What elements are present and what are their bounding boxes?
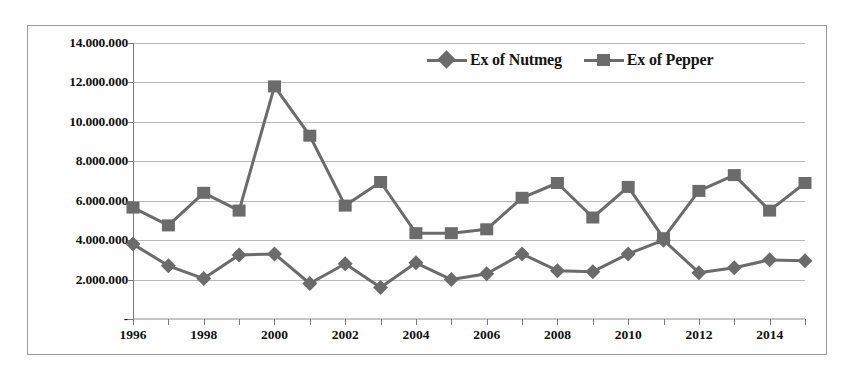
x-axis-tick — [168, 319, 169, 325]
x-axis-tick-label: 1996 — [120, 327, 147, 343]
x-axis-ticks — [133, 319, 805, 327]
data-point-square — [303, 130, 316, 142]
data-point-square — [657, 232, 670, 244]
series-plot — [133, 43, 805, 319]
x-axis-tick — [770, 319, 771, 325]
plot-area — [133, 43, 805, 319]
data-point-diamond — [515, 246, 530, 261]
x-axis-tick — [381, 319, 382, 325]
chart-legend: Ex of Nutmeg Ex of Pepper — [427, 48, 713, 72]
data-point-square — [551, 177, 564, 189]
x-axis-tick — [416, 319, 417, 325]
data-point-square — [480, 223, 493, 235]
data-point-square — [339, 200, 352, 212]
x-axis-tick-label: 1998 — [190, 327, 217, 343]
data-point-square — [445, 227, 458, 239]
series-line-nutmeg — [133, 240, 805, 287]
x-axis-tick — [664, 319, 665, 325]
data-point-square — [728, 169, 741, 181]
x-axis-labels: 1996199820002002200420062008201020122014 — [133, 327, 805, 349]
data-point-diamond — [550, 263, 565, 278]
data-point-square — [127, 202, 140, 214]
data-point-square — [374, 176, 387, 188]
data-point-diamond — [798, 253, 813, 268]
data-point-diamond — [444, 272, 459, 287]
y-axis-tick-label: 4.000.000 — [76, 232, 128, 248]
legend-item-pepper[interactable]: Ex of Pepper — [584, 51, 713, 69]
data-point-square — [516, 192, 529, 204]
x-axis-tick-label: 2014 — [756, 327, 783, 343]
data-point-square — [197, 187, 210, 199]
x-axis-tick — [451, 319, 452, 325]
y-axis-tick-label: 10.000.000 — [69, 114, 128, 130]
data-point-square — [268, 80, 281, 92]
x-axis-tick-label: 2010 — [615, 327, 642, 343]
data-point-square — [622, 181, 635, 193]
x-axis-tick — [310, 319, 311, 325]
data-point-diamond — [762, 252, 777, 267]
x-axis-tick — [133, 319, 134, 325]
y-axis-tick-label: 2.000.000 — [76, 272, 128, 288]
x-axis-tick-label: 2012 — [685, 327, 712, 343]
data-point-diamond — [621, 246, 636, 261]
data-point-square — [763, 205, 776, 217]
data-point-square — [692, 185, 705, 197]
data-point-diamond — [161, 258, 176, 273]
diamond-marker-icon — [427, 53, 467, 67]
legend-label-pepper: Ex of Pepper — [627, 51, 713, 69]
data-point-square — [162, 219, 175, 231]
data-point-diamond — [585, 264, 600, 279]
y-axis-tick-label: 14.000.000 — [69, 35, 128, 51]
x-axis-tick — [345, 319, 346, 325]
x-axis-tick — [239, 319, 240, 325]
x-axis-tick — [487, 319, 488, 325]
data-point-square — [799, 177, 812, 189]
x-axis-tick — [628, 319, 629, 325]
x-axis-tick-label: 2006 — [473, 327, 500, 343]
chart-container: -2.000.0004.000.0006.000.0008.000.00010.… — [27, 25, 827, 355]
data-point-diamond — [727, 260, 742, 275]
x-axis-tick-label: 2002 — [332, 327, 359, 343]
x-axis-tick — [734, 319, 735, 325]
data-point-square — [586, 212, 599, 224]
legend-item-nutmeg[interactable]: Ex of Nutmeg — [427, 51, 562, 69]
x-axis-tick — [522, 319, 523, 325]
square-marker-icon — [584, 53, 624, 67]
x-axis-tick — [699, 319, 700, 325]
data-point-diamond — [479, 266, 494, 281]
x-axis-tick-label: 2000 — [261, 327, 288, 343]
data-point-square — [409, 227, 422, 239]
x-axis-tick — [557, 319, 558, 325]
x-axis-tick-label: 2004 — [402, 327, 429, 343]
x-axis-tick — [274, 319, 275, 325]
y-axis-tick-label: 6.000.000 — [76, 193, 128, 209]
legend-label-nutmeg: Ex of Nutmeg — [470, 51, 562, 69]
x-axis-tick — [805, 319, 806, 325]
y-axis-labels: -2.000.0004.000.0006.000.0008.000.00010.… — [28, 43, 128, 319]
data-point-square — [233, 205, 246, 217]
y-axis-tick-label: 12.000.000 — [69, 74, 128, 90]
y-axis-tick-label: 8.000.000 — [76, 153, 128, 169]
x-axis-tick — [593, 319, 594, 325]
x-axis-tick-label: 2008 — [544, 327, 571, 343]
x-axis-tick — [204, 319, 205, 325]
